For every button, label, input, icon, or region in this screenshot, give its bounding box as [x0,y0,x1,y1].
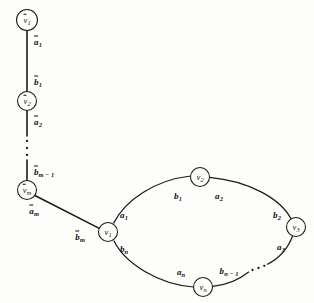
cycle-node-label-v2: v2 [196,173,203,182]
edge-label-an: an [177,268,185,277]
figure-canvas: v1 v2 vm v1 v2 v3 vn a1 b1 a2 bm − 1 am … [0,0,314,303]
cycle-node-label-v3: v3 [292,223,299,232]
path-node-label-v1bar: v1 [23,16,30,25]
edge-label-a2bar: a2 [34,118,42,127]
edge-label-a3: a3 [277,243,285,252]
edge-label-a2: a2 [215,192,223,201]
edge-label-ambar: am [29,207,39,216]
vertical-ellipsis-dot-3 [26,154,28,156]
path-node-label-vmbar: vm [23,186,32,195]
edge-label-bn: bn [120,245,128,254]
arc-ellipsis-dot-2 [257,267,259,269]
graph-svg [0,0,314,303]
edge-label-bmbar: bm [75,233,85,242]
edge-label-b2: b2 [273,211,281,220]
edge-label-b1: b1 [174,192,182,201]
vertical-ellipsis-dot-1 [26,140,28,142]
edge-label-b1bar: b1 [34,78,42,87]
cycle-node-label-v1: v1 [104,228,111,237]
vertical-ellipsis-dot-2 [26,147,28,149]
cycle-node-label-vn: vn [199,283,206,292]
arc-ellipsis-dot-1 [251,269,253,271]
edge-label-a1bar: a1 [34,38,42,47]
edge-label-a1: a1 [120,211,128,220]
path-node-label-v2bar: v2 [23,97,30,106]
path-edge-vmbar-v1 [35,196,99,229]
edge-label-bm1bar: bm − 1 [34,168,54,177]
edge-label-bn1: bn − 1 [220,267,239,276]
arc-ellipsis-dot-3 [263,265,265,267]
